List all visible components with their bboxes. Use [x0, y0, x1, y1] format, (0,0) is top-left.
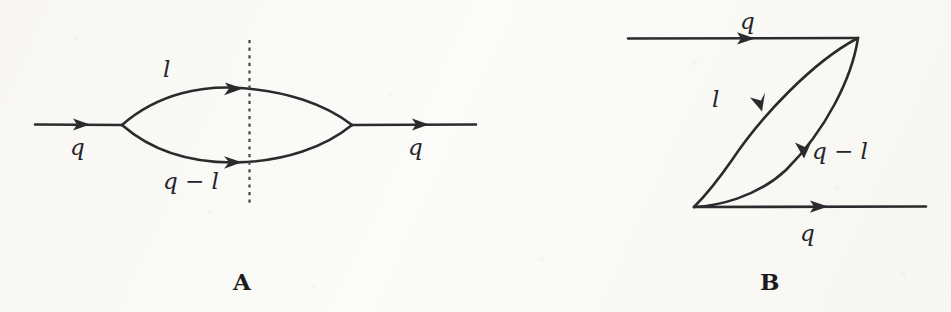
- label-left-loop-momentum-b: l: [712, 88, 719, 111]
- right-loop-arc-b: [694, 38, 858, 207]
- bottom-line-b: [694, 207, 926, 208]
- label-outgoing-momentum-a: q: [408, 136, 423, 159]
- label-right-loop-momentum-b: q − l: [812, 140, 868, 163]
- lower-loop-arc-a: [122, 125, 352, 162]
- label-upper-loop-momentum-a: l: [163, 58, 170, 81]
- upper-loop-arc-a: [122, 88, 352, 125]
- label-top-incoming-momentum-b: q: [740, 10, 755, 33]
- left-loop-arc-b: [694, 38, 858, 207]
- diagram-a-svg: [0, 0, 951, 312]
- diagram-a-group: [35, 40, 476, 206]
- label-lower-loop-momentum-a: q − l: [163, 170, 219, 193]
- panel-caption-a: A: [233, 270, 251, 293]
- outgoing-line-a: [352, 125, 476, 126]
- label-incoming-momentum-a: q: [70, 136, 85, 159]
- diagram-b-group: [628, 32, 926, 213]
- figure-canvas: q l q − l q A q l q − l q B: [0, 0, 951, 312]
- panel-caption-b: B: [760, 270, 779, 293]
- left-loop-arrowhead-b: [750, 93, 765, 112]
- label-bottom-outgoing-momentum-b: q: [800, 222, 815, 245]
